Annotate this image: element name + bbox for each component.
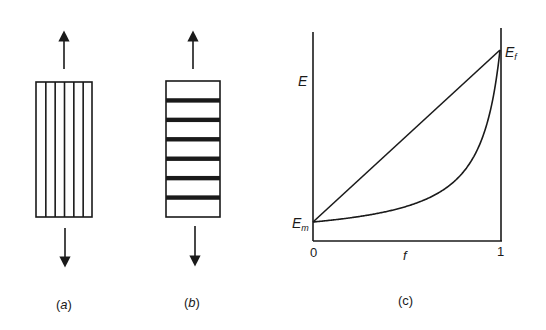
panel-a-longitudinal-composite [36, 36, 92, 262]
caption-b: (b) [184, 296, 200, 309]
caption-a: (a) [56, 298, 72, 311]
em-label: Em [292, 216, 309, 230]
fibre [166, 157, 220, 161]
fibre [166, 176, 220, 180]
fibre [166, 98, 220, 102]
x-tick-1: 1 [497, 245, 504, 258]
y-axis-label: E [298, 74, 307, 88]
x-axis-label: f [403, 249, 407, 262]
panel-c-modulus-plot [313, 28, 502, 241]
caption-c: (c) [398, 294, 413, 307]
ef-label: Ef [505, 45, 517, 59]
upper-bound-line [313, 50, 500, 222]
fibre [166, 118, 220, 122]
fibre [166, 137, 220, 141]
fibre [166, 195, 220, 199]
figure-canvas [0, 0, 546, 330]
panel-b-transverse-composite [166, 36, 220, 261]
x-tick-0: 0 [310, 246, 317, 259]
